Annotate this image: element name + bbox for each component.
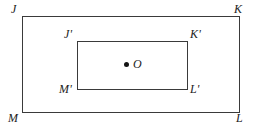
vertex-label-K-prime: K'	[190, 28, 201, 40]
vertex-label-M: M	[8, 112, 18, 124]
vertex-label-J-prime: J'	[64, 28, 72, 40]
vertex-label-M-prime: M'	[59, 83, 72, 95]
geometry-figure: O J K L M J' K' L' M'	[0, 0, 258, 130]
center-point-dot	[124, 62, 129, 67]
vertex-label-L-prime: L'	[190, 83, 200, 95]
vertex-label-K: K	[234, 3, 242, 15]
center-point-label: O	[133, 58, 142, 70]
vertex-label-L: L	[236, 112, 243, 124]
vertex-label-J: J	[11, 3, 17, 15]
